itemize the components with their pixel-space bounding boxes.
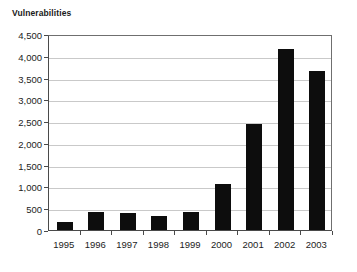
vulnerabilities-bar-chart: Vulnerabilities 05001,0001,5002,0002,500… <box>0 0 357 272</box>
x-axis-labels: 199519961997199819992000200120022003 <box>48 239 332 255</box>
bar-1998 <box>151 216 167 230</box>
bar-2001 <box>246 124 262 230</box>
y-tick-label: 2,500 <box>0 117 42 128</box>
x-tick-mark <box>111 231 112 235</box>
x-tick-label-1998: 1998 <box>148 239 169 250</box>
bar-1997 <box>120 213 136 230</box>
y-tick-label: 500 <box>0 204 42 215</box>
bars-layer <box>49 36 331 230</box>
x-tick-mark <box>174 231 175 235</box>
y-tick-label: 3,000 <box>0 95 42 106</box>
bar-2002 <box>278 49 294 230</box>
x-tick-mark <box>206 231 207 235</box>
x-tick-mark <box>237 231 238 235</box>
x-tick-mark <box>80 231 81 235</box>
x-tick-label-2003: 2003 <box>306 239 327 250</box>
x-tick-label-2000: 2000 <box>211 239 232 250</box>
x-axis-ticks <box>48 231 332 236</box>
x-tick-label-1996: 1996 <box>85 239 106 250</box>
x-tick-mark <box>300 231 301 235</box>
y-tick-label: 4,500 <box>0 30 42 41</box>
y-tick-label: 0 <box>0 226 42 237</box>
x-tick-label-1995: 1995 <box>53 239 74 250</box>
plot-area <box>48 35 332 231</box>
bar-1995 <box>57 222 73 230</box>
y-axis: 05001,0001,5002,0002,5003,0003,5004,0004… <box>0 0 42 272</box>
x-tick-mark <box>269 231 270 235</box>
y-tick-label: 3,500 <box>0 73 42 84</box>
x-tick-mark <box>143 231 144 235</box>
x-tick-mark <box>332 231 333 235</box>
x-tick-label-2001: 2001 <box>243 239 264 250</box>
y-tick-label: 1,500 <box>0 160 42 171</box>
bar-2003 <box>309 71 325 230</box>
bar-1999 <box>183 212 199 230</box>
y-tick-label: 1,000 <box>0 182 42 193</box>
x-tick-label-1999: 1999 <box>179 239 200 250</box>
x-tick-label-1997: 1997 <box>116 239 137 250</box>
y-tick-label: 4,000 <box>0 51 42 62</box>
bar-1996 <box>88 212 104 230</box>
x-tick-label-2002: 2002 <box>274 239 295 250</box>
bar-2000 <box>215 184 231 230</box>
y-tick-label: 2,000 <box>0 138 42 149</box>
